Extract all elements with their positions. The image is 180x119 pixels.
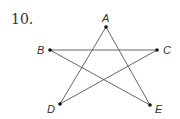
point-D [58,102,62,106]
point-label-C: C [163,44,171,56]
point-E [148,103,152,107]
point-A [104,25,108,29]
segment-CD [60,50,157,104]
segment-AD [60,27,106,104]
point-B [48,48,52,52]
point-C [155,48,159,52]
point-label-E: E [155,103,163,115]
point-label-D: D [47,103,55,115]
point-label-A: A [101,12,109,24]
pentagram-diagram: ABCDE [0,0,180,119]
point-label-B: B [37,44,44,56]
